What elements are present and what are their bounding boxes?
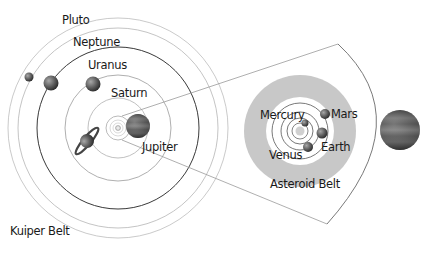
diagram-canvas — [0, 0, 430, 253]
earth-label: Earth — [321, 142, 350, 154]
jupiter-large — [380, 110, 420, 150]
inner-sun — [296, 127, 305, 136]
saturn-label: Saturn — [111, 88, 147, 100]
kuiper-belt-label: Kuiper Belt — [10, 226, 70, 238]
earth-planet — [317, 128, 328, 139]
mars-label: Mars — [331, 109, 358, 121]
solar-system-diagram: Pluto Neptune Uranus Saturn Jupiter Kuip… — [0, 0, 430, 253]
outer-orbits — [8, 18, 228, 238]
venus-planet — [303, 142, 313, 152]
venus-label: Venus — [269, 150, 302, 162]
uranus-planet — [86, 77, 101, 92]
uranus-label: Uranus — [88, 60, 127, 72]
pluto-label: Pluto — [62, 15, 89, 27]
saturn-planet — [71, 123, 104, 158]
neptune-planet — [44, 76, 59, 91]
jupiter-label: Jupiter — [142, 142, 177, 154]
sun — [116, 126, 121, 131]
neptune-label: Neptune — [73, 37, 120, 49]
pluto-planet — [25, 73, 34, 82]
mercury-label: Mercury — [260, 110, 305, 122]
mars-planet — [320, 109, 330, 119]
asteroid-belt-label: Asteroid Belt — [270, 179, 340, 191]
